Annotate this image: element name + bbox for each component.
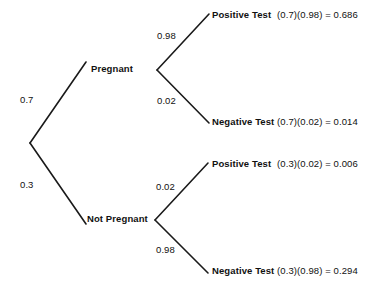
- outcome-label-not-pregnant-positive: Positive Test: [212, 158, 271, 169]
- probability-label-not-pregnant-positive: 0.02: [156, 181, 175, 192]
- probability-label-not-pregnant: 0.3: [20, 179, 34, 190]
- branch-root-to-not-pregnant: [30, 143, 86, 224]
- probability-tree-diagram: 0.7 0.3 Pregnant Not Pregnant 0.98 0.02 …: [0, 0, 383, 295]
- outcome-label-pregnant-positive: Positive Test: [212, 9, 271, 20]
- calculation-pregnant-negative: (0.7)(0.02) = 0.014: [277, 116, 358, 127]
- probability-label-not-pregnant-negative: 0.98: [156, 244, 175, 255]
- tree-branch-lines: [0, 0, 383, 295]
- branch-root-to-pregnant: [30, 62, 86, 143]
- calculation-pregnant-positive: (0.7)(0.98) = 0.686: [277, 9, 358, 20]
- node-label-not-pregnant: Not Pregnant: [87, 213, 148, 224]
- branch-pregnant-to-positive: [157, 14, 209, 70]
- probability-label-pregnant-negative: 0.02: [157, 95, 176, 106]
- outcome-label-pregnant-negative: Negative Test: [212, 116, 274, 127]
- probability-label-pregnant: 0.7: [20, 94, 34, 105]
- outcome-label-not-pregnant-negative: Negative Test: [212, 265, 274, 276]
- probability-label-pregnant-positive: 0.98: [157, 30, 176, 41]
- calculation-not-pregnant-negative: (0.3)(0.98) = 0.294: [277, 265, 358, 276]
- calculation-not-pregnant-positive: (0.3)(0.02) = 0.006: [277, 158, 358, 169]
- node-label-pregnant: Pregnant: [91, 63, 133, 74]
